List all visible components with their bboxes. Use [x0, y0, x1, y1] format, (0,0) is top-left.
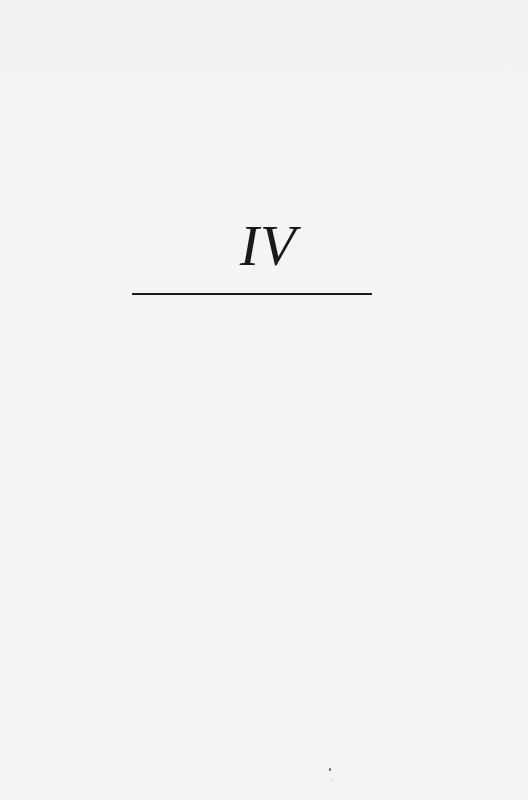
- horizontal-rule: [132, 293, 372, 295]
- book-page: IV: [0, 0, 528, 800]
- scan-speck: [331, 779, 332, 780]
- section-heading: IV: [0, 216, 528, 276]
- scan-speck: [329, 768, 331, 771]
